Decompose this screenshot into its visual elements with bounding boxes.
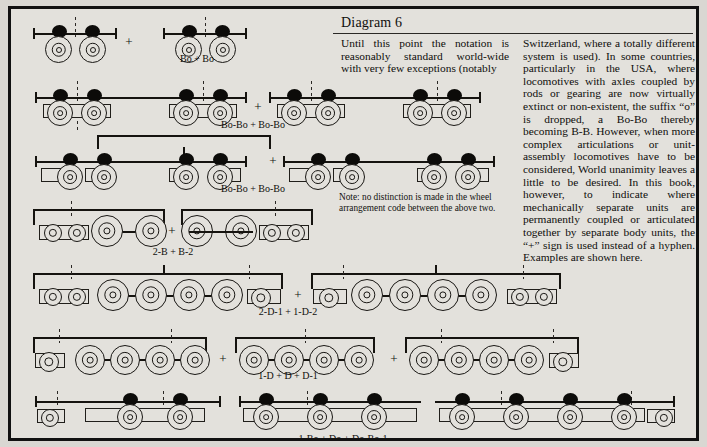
driving-wheel bbox=[455, 164, 481, 190]
articulation-centre-line bbox=[553, 329, 554, 343]
left-column-paragraph: Until this point the notation is reasona… bbox=[341, 37, 509, 75]
carrying-wheel bbox=[263, 224, 281, 242]
articulation-centre-line bbox=[311, 81, 312, 101]
carrying-wheel bbox=[251, 288, 271, 308]
plus-sign: + bbox=[219, 351, 226, 367]
articulation-centre-line bbox=[77, 81, 78, 101]
bracket-stem bbox=[163, 265, 165, 275]
beam-end-cap bbox=[35, 92, 37, 103]
bracket-end bbox=[33, 337, 35, 351]
beam-end-cap bbox=[35, 156, 37, 167]
carrying-wheel bbox=[39, 352, 59, 372]
driving-wheel bbox=[514, 345, 544, 375]
articulation-centre-line bbox=[305, 329, 306, 343]
right-column-paragraph: Switzerland, where a totally different s… bbox=[523, 37, 695, 264]
articulation-centre-line bbox=[59, 329, 60, 343]
driving-wheel bbox=[465, 279, 497, 311]
driving-wheel bbox=[557, 404, 583, 430]
articulation-centre-line bbox=[163, 391, 164, 405]
bracket-end bbox=[33, 209, 35, 223]
driving-wheel bbox=[135, 279, 167, 311]
driving-wheel bbox=[441, 100, 467, 126]
plus-sign: + bbox=[125, 34, 132, 50]
articulation-centre-line bbox=[203, 81, 204, 101]
articulation-centre-line bbox=[523, 265, 524, 279]
driving-wheel bbox=[167, 404, 193, 430]
driving-wheel bbox=[173, 279, 205, 311]
note-text: Note: no distinction is made in the whee… bbox=[339, 192, 495, 213]
bracket-end bbox=[577, 337, 579, 351]
articulation-centre-line bbox=[77, 121, 78, 133]
carrying-wheel bbox=[655, 409, 673, 427]
plus-sign: + bbox=[254, 99, 261, 115]
driving-wheel bbox=[253, 404, 279, 430]
driving-wheel bbox=[91, 164, 117, 190]
driving-wheel bbox=[427, 279, 459, 311]
driving-wheel bbox=[97, 279, 129, 311]
articulation-centre-line bbox=[437, 81, 438, 101]
driving-wheel bbox=[409, 345, 439, 375]
driving-wheel bbox=[344, 345, 374, 375]
driving-wheel bbox=[81, 100, 107, 126]
driving-wheel bbox=[173, 164, 199, 190]
driving-wheel bbox=[611, 404, 637, 430]
text-column-left: Until this point the notation is reasona… bbox=[341, 37, 509, 75]
plus-sign: + bbox=[168, 223, 175, 239]
carrying-wheel bbox=[68, 224, 86, 242]
page-border: Diagram 6 Until this point the notation … bbox=[8, 6, 699, 441]
beam-end-cap bbox=[269, 92, 271, 103]
beam-end-cap bbox=[239, 396, 241, 407]
driving-wheel bbox=[180, 345, 210, 375]
driving-wheel bbox=[407, 100, 433, 126]
driving-wheel bbox=[351, 279, 383, 311]
beam-end-cap bbox=[245, 28, 247, 39]
beam-end-cap bbox=[479, 92, 481, 103]
driving-wheel bbox=[79, 36, 106, 63]
beam-end-cap bbox=[163, 28, 165, 39]
title-rule bbox=[333, 33, 693, 34]
carrying-wheel bbox=[287, 224, 305, 242]
row-3-label: Bo-Bo + Bo-Bo bbox=[221, 183, 285, 194]
articulation-centre-line bbox=[75, 17, 76, 37]
driving-wheel bbox=[339, 164, 365, 190]
driving-wheel bbox=[117, 404, 143, 430]
page-title: Diagram 6 bbox=[341, 15, 402, 31]
coupling-rod bbox=[189, 231, 253, 233]
driving-wheel bbox=[479, 345, 509, 375]
driving-wheel bbox=[91, 215, 123, 247]
bracket-stem bbox=[435, 265, 437, 275]
row-6-label: 1-D + D + D-1 bbox=[258, 370, 318, 381]
articulation-centre-line bbox=[57, 391, 58, 405]
row-2-label: Bo-Bo + Bo-Bo bbox=[221, 119, 285, 130]
beam-end-cap bbox=[245, 156, 247, 167]
driving-wheel bbox=[145, 345, 175, 375]
articulation-centre-line bbox=[343, 265, 344, 279]
diagram-canvas: Diagram 6 Until this point the notation … bbox=[11, 9, 696, 438]
row-7-label: 1-Bo + Do + Do-Bo-1 bbox=[298, 433, 387, 438]
articulation-centre-line bbox=[275, 201, 276, 217]
carrying-wheel bbox=[535, 288, 553, 306]
carrying-wheel bbox=[68, 288, 86, 306]
driving-wheel bbox=[47, 100, 73, 126]
beam bbox=[435, 401, 675, 403]
articulation-centre-line bbox=[71, 201, 72, 217]
driving-wheel bbox=[503, 404, 529, 430]
driving-wheel bbox=[110, 345, 140, 375]
driving-wheel bbox=[421, 164, 447, 190]
carrying-wheel bbox=[44, 224, 62, 242]
articulation-centre-line bbox=[307, 391, 308, 405]
plus-sign: + bbox=[269, 153, 276, 169]
driving-wheel bbox=[361, 404, 387, 430]
driving-wheel bbox=[389, 279, 421, 311]
carrying-wheel bbox=[319, 288, 339, 308]
bracket-end bbox=[33, 273, 35, 287]
row-5-label: 2-D-1 + 1-D-2 bbox=[259, 306, 317, 317]
driving-wheel bbox=[75, 345, 105, 375]
row-1-label: Bo + Bo bbox=[180, 53, 214, 64]
note-block: Note: no distinction is made in the whee… bbox=[339, 192, 517, 213]
articulation-centre-line bbox=[441, 329, 442, 343]
carrying-wheel bbox=[41, 409, 59, 427]
bracket-end bbox=[311, 209, 313, 223]
beam-end-cap bbox=[219, 396, 221, 407]
scanned-page: Diagram 6 Until this point the notation … bbox=[0, 0, 707, 447]
